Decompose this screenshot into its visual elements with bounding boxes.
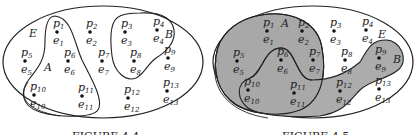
point-p6: p6e6	[64, 46, 76, 77]
point-p13: p13e13	[163, 76, 180, 107]
point-p7: p7e7	[98, 46, 110, 77]
point-label-p: p6	[64, 46, 76, 60]
point-label-p: p13	[163, 76, 180, 90]
point-label-e: e4	[362, 32, 373, 46]
point-label-e: e4	[153, 32, 164, 46]
label-E-right: E	[377, 28, 386, 41]
point-label-e: e8	[130, 63, 142, 77]
label-B: B	[164, 28, 173, 41]
point-p11: p11e11	[78, 81, 94, 112]
point-label-p: p12	[124, 83, 141, 97]
figure-right: A E B p1e1p2e2p3e3p4e4p5e5p6e6p7e7p8e8p9…	[213, 6, 413, 135]
point-label-p: p2	[298, 16, 310, 30]
point-label-e: e1	[53, 34, 64, 48]
point-label-p: p10	[30, 80, 47, 94]
point-label-p: p9	[164, 43, 176, 57]
point-label-e: e5	[21, 63, 33, 77]
point-label-p: p3	[330, 16, 342, 30]
point-label-p: p8	[341, 45, 353, 59]
caption-left: FIGURE 4.4	[72, 130, 139, 135]
point-label-e: e7	[98, 63, 110, 77]
point-label-e: e12	[124, 100, 140, 114]
point-p5: p5e5	[21, 46, 33, 77]
point-p8: p8e8	[341, 45, 353, 76]
point-label-e: e11	[78, 98, 93, 112]
point-p4: p4e4	[153, 15, 165, 46]
point-label-e: e13	[375, 91, 391, 105]
figure-left: E A B p1e1p2e2p3e3p4e4p5e5p6e6p7e7p8e8p9…	[3, 6, 203, 135]
point-p12: p12e12	[124, 83, 141, 114]
label-A-right: A	[280, 17, 289, 30]
point-p2: p2e2	[86, 17, 98, 48]
point-label-p: p7	[98, 46, 110, 60]
point-p3: p3e3	[121, 17, 133, 48]
venn-diagrams: E A B p1e1p2e2p3e3p4e4p5e5p6e6p7e7p8e8p9…	[0, 0, 416, 135]
point-label-p: p3	[121, 17, 133, 31]
point-label-e: e3	[330, 33, 342, 47]
point-label-p: p11	[78, 81, 94, 95]
point-p1: p1e1	[53, 17, 65, 48]
point-label-e: e9	[164, 60, 176, 74]
label-A: A	[43, 61, 52, 74]
point-label-e: e8	[341, 62, 353, 76]
point-label-e: e13	[163, 93, 179, 107]
caption-right: FIGURE 4.5	[282, 130, 349, 135]
point-p9: p9e9	[164, 43, 176, 74]
point-p8: p8e8	[130, 46, 142, 77]
point-label-e: e2	[86, 34, 98, 48]
point-p10: p10e10	[30, 80, 47, 111]
label-B-right: B	[392, 53, 401, 66]
point-label-e: e6	[64, 63, 76, 77]
label-E: E	[28, 27, 37, 40]
point-p3: p3e3	[330, 16, 342, 47]
point-label-p: p5	[21, 46, 33, 60]
point-label-p: p2	[86, 17, 98, 31]
point-label-p: p8	[130, 46, 142, 60]
point-p4: p4e4	[362, 15, 374, 46]
point-label-e: e10	[30, 97, 46, 111]
